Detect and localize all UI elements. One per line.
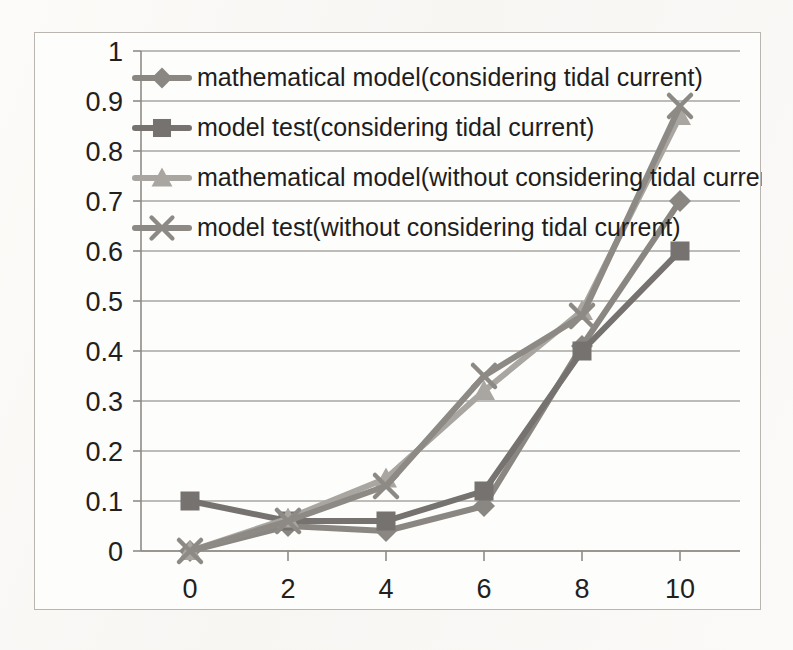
y-tick-label-0.8: 0.8 — [85, 137, 123, 167]
legend-square-marker-icon-1 — [153, 119, 171, 137]
y-tick-label-0.1: 0.1 — [85, 487, 123, 517]
series-1-square-marker-icon — [475, 482, 494, 501]
y-tick-label-1.0: 1 — [108, 37, 123, 67]
x-axis-tick-labels: 0 2 4 6 8 10 — [182, 574, 695, 604]
line-chart: 1 0.9 0.8 0.7 0.6 0.5 0.4 0.3 0.2 0.1 0 … — [35, 33, 762, 611]
x-tick-label-0: 0 — [182, 574, 197, 604]
legend-entry-3[interactable]: model test(without considering tidal cur… — [135, 213, 681, 241]
legend-entry-0[interactable]: mathematical model(considering tidal cur… — [135, 63, 703, 91]
series-1 — [181, 242, 690, 531]
legend-entry-1[interactable]: model test(considering tidal current) — [135, 113, 594, 141]
x-tick-label-8: 8 — [574, 574, 589, 604]
x-axis — [141, 551, 740, 561]
legend-label-3: model test(without considering tidal cur… — [197, 213, 681, 241]
y-tick-label-0.2: 0.2 — [85, 437, 123, 467]
series-line-0 — [190, 201, 680, 551]
legend-entry-2[interactable]: mathematical model(without considering t… — [135, 163, 762, 191]
series-1-square-marker-icon — [573, 342, 592, 361]
y-tick-label-0.4: 0.4 — [85, 337, 123, 367]
legend-diamond-marker-icon-0 — [152, 68, 173, 89]
y-tick-label-0.6: 0.6 — [85, 237, 123, 267]
y-axis-tick-labels: 1 0.9 0.8 0.7 0.6 0.5 0.4 0.3 0.2 0.1 0 — [85, 37, 123, 567]
y-tick-label-0.0: 0 — [108, 537, 123, 567]
x-tick-label-2: 2 — [280, 574, 295, 604]
x-tick-label-10: 10 — [665, 574, 695, 604]
series-line-1 — [190, 251, 680, 521]
x-tick-label-6: 6 — [476, 574, 491, 604]
y-tick-label-0.3: 0.3 — [85, 387, 123, 417]
legend-label-0: mathematical model(considering tidal cur… — [197, 63, 703, 91]
y-tick-label-0.9: 0.9 — [85, 87, 123, 117]
series-1-square-marker-icon — [671, 242, 690, 261]
series-1-square-marker-icon — [181, 492, 200, 511]
x-tick-label-4: 4 — [378, 574, 393, 604]
y-tick-label-0.7: 0.7 — [85, 187, 123, 217]
y-tick-label-0.5: 0.5 — [85, 287, 123, 317]
series-1-square-marker-icon — [377, 512, 396, 531]
legend-label-1: model test(considering tidal current) — [197, 113, 594, 141]
chart-frame: 1 0.9 0.8 0.7 0.6 0.5 0.4 0.3 0.2 0.1 0 … — [34, 32, 761, 610]
legend-label-2: mathematical model(without considering t… — [197, 163, 762, 191]
